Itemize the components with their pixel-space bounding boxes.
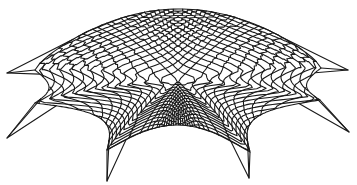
- gridshell-dome-figure: [0, 0, 357, 185]
- support-leg-left: [7, 39, 73, 74]
- mesh-line: [59, 48, 190, 126]
- dome-wireframe-drawing: [0, 0, 357, 185]
- support-leg-edge: [7, 103, 35, 138]
- support-leg-edge: [249, 152, 250, 178]
- support-leg-edge: [320, 100, 349, 132]
- mesh-line: [35, 9, 321, 152]
- dome-mesh-lines: [35, 9, 321, 152]
